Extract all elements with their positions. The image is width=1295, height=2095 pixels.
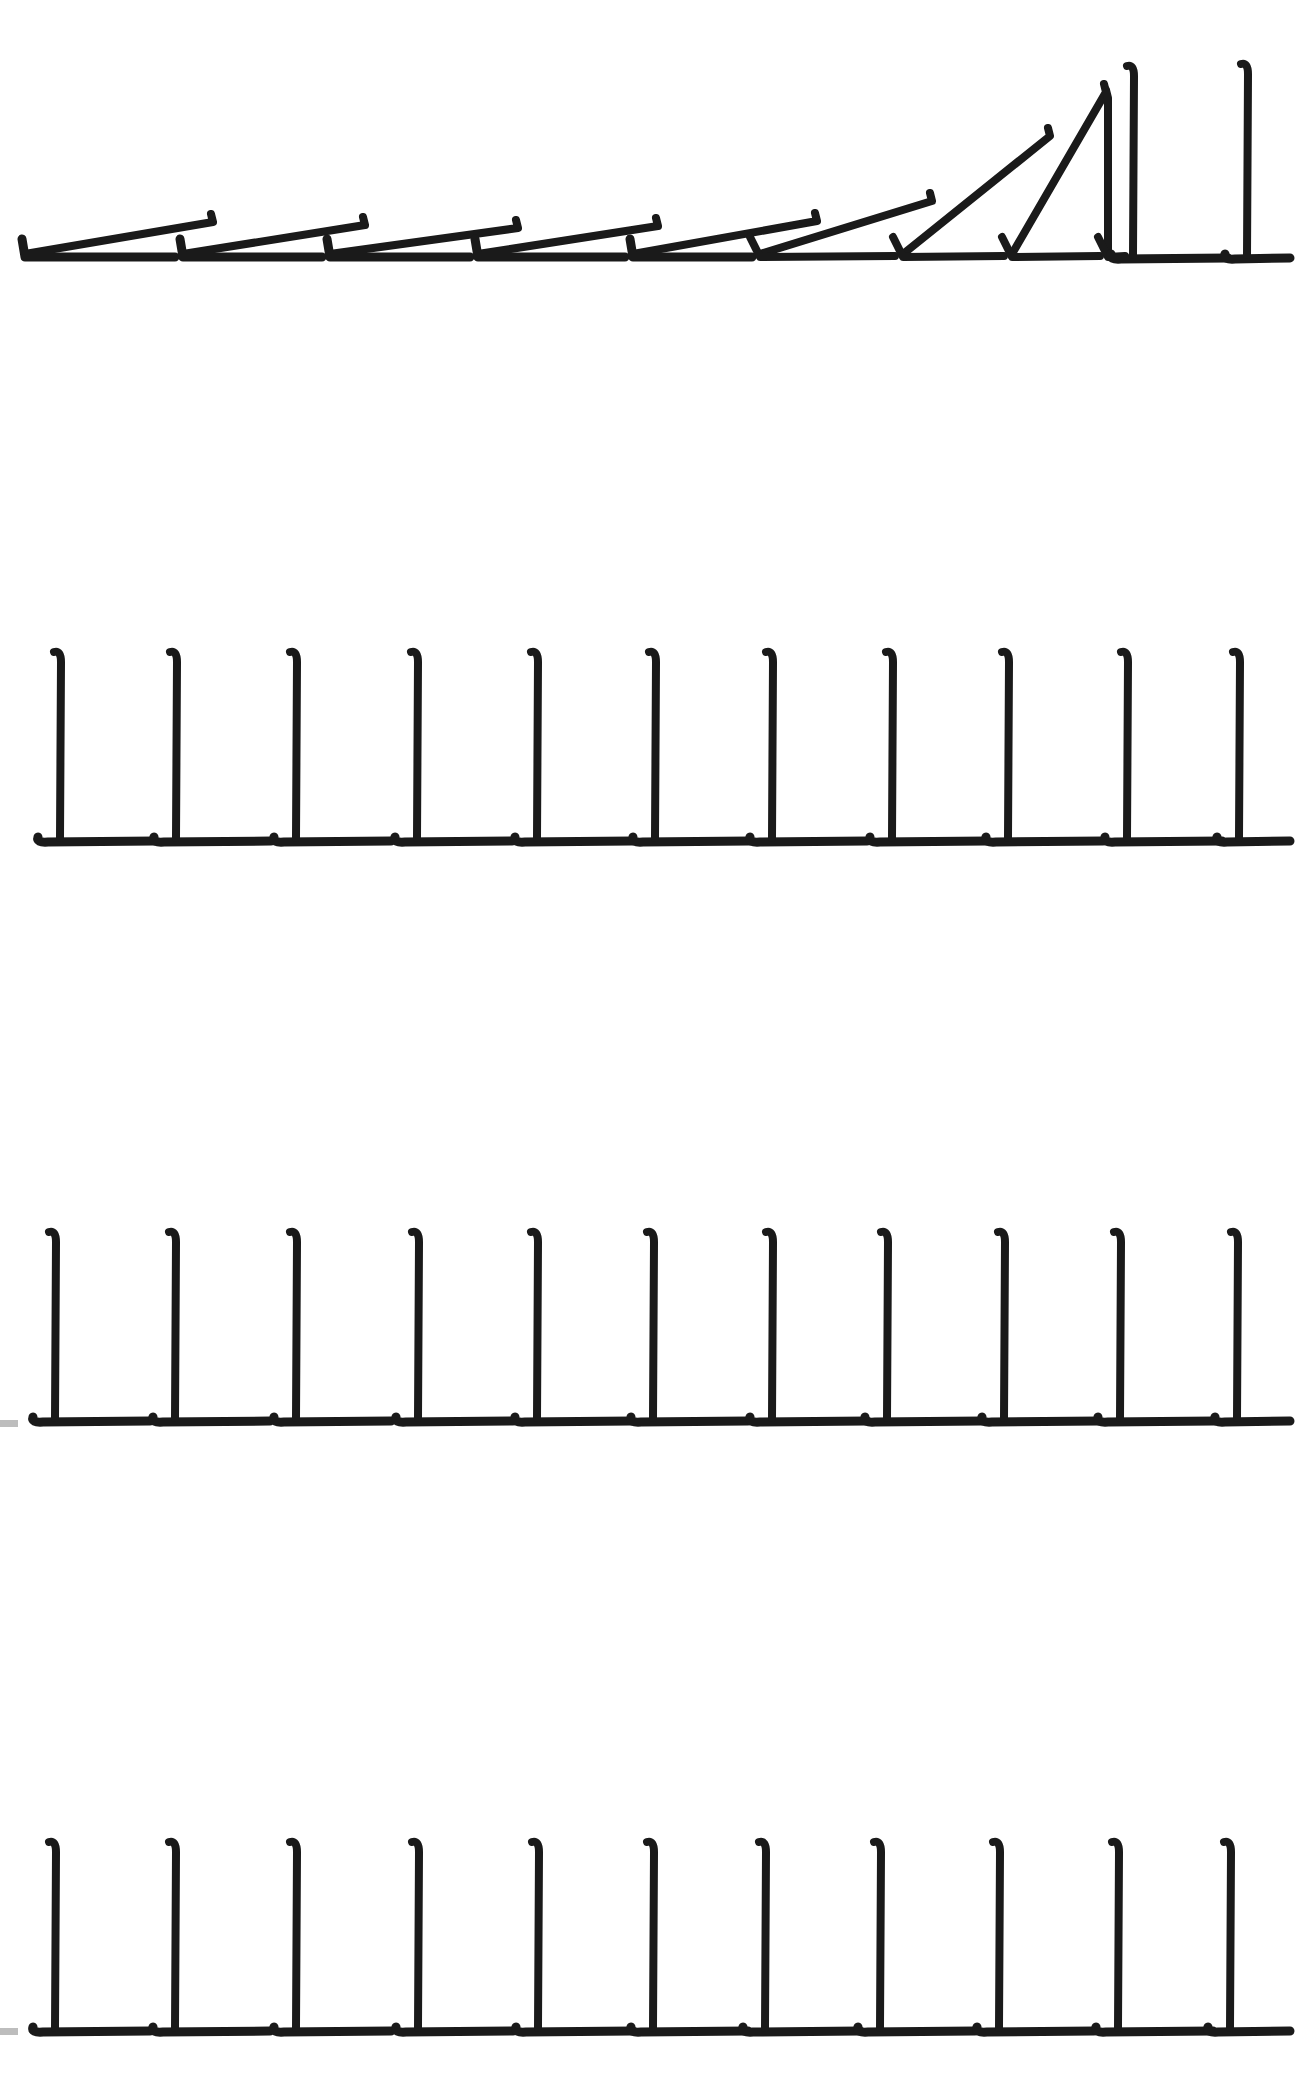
domino [396, 1842, 513, 2032]
row-4-standing [33, 1842, 1290, 2032]
domino [33, 1232, 150, 1422]
row-1-falling [22, 64, 1290, 259]
domino [865, 1232, 982, 1422]
domino [274, 652, 391, 842]
domino [1098, 1232, 1215, 1422]
domino [977, 1842, 1094, 2032]
domino [153, 1842, 270, 2032]
domino [515, 1232, 632, 1422]
domino [38, 652, 155, 842]
domino [154, 652, 271, 842]
domino [396, 1232, 513, 1422]
domino-illustration [0, 0, 1295, 2095]
domino [1217, 652, 1290, 842]
domino [515, 652, 632, 842]
domino [33, 1842, 150, 2032]
domino [893, 128, 1050, 257]
domino [395, 652, 512, 842]
domino [1098, 90, 1125, 257]
row-3-standing [33, 1232, 1290, 1422]
domino [1002, 84, 1106, 257]
domino [516, 1842, 633, 2032]
domino [858, 1842, 975, 2032]
domino [1111, 66, 1228, 259]
domino [982, 1232, 1099, 1422]
domino [274, 1842, 391, 2032]
domino [633, 652, 750, 842]
domino [743, 1842, 860, 2032]
domino [274, 1232, 391, 1422]
domino [986, 652, 1103, 842]
row-2-standing [38, 652, 1290, 842]
domino [631, 1842, 748, 2032]
domino [1225, 64, 1290, 259]
domino [750, 1232, 867, 1422]
domino [1208, 1842, 1290, 2032]
domino [1096, 1842, 1213, 2032]
domino [870, 652, 987, 842]
domino [1105, 652, 1222, 842]
domino [153, 1232, 270, 1422]
domino [1215, 1232, 1290, 1422]
domino [750, 652, 867, 842]
scan-edge-mark-left-bottom [0, 2028, 18, 2035]
domino [631, 1232, 748, 1422]
scan-edge-mark-left [0, 1420, 18, 1427]
